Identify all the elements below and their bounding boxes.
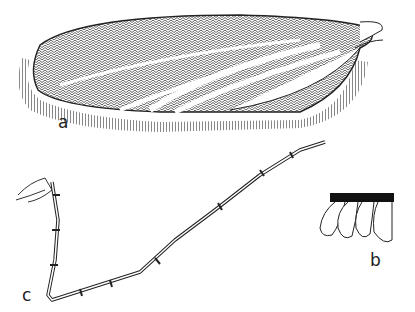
- panel-label-b: b: [370, 250, 381, 270]
- panel-label-a: a: [58, 112, 68, 132]
- antenna-drawing: [16, 142, 325, 300]
- scientific-illustration: a b c: [0, 0, 415, 312]
- wing-drawing: [18, 15, 383, 132]
- scales-drawing: [320, 193, 394, 242]
- illustration-drawing: [0, 0, 415, 312]
- panel-label-c: c: [22, 285, 31, 305]
